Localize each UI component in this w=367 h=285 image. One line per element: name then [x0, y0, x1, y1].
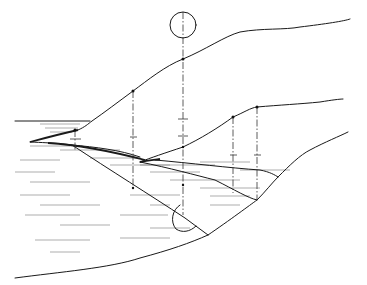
boulder-semicircle — [173, 205, 196, 231]
point-marker — [182, 58, 185, 61]
upper-slope-line — [78, 19, 350, 130]
lower-slope-line — [208, 132, 348, 235]
point-marker — [232, 116, 235, 119]
point-marker — [132, 187, 134, 189]
point-marker — [182, 146, 184, 148]
shore-wedge-band — [48, 143, 145, 160]
ground-line — [15, 235, 208, 278]
point-marker — [182, 184, 184, 186]
middle-layer-bottom — [140, 162, 257, 200]
middle-layer-top — [155, 160, 278, 177]
point-marker — [256, 106, 259, 109]
middle-slope-line — [140, 99, 343, 162]
point-marker — [132, 90, 135, 93]
coastal-section-drawing — [0, 0, 367, 285]
diagram-canvas — [0, 0, 367, 285]
point-marker — [74, 129, 77, 132]
